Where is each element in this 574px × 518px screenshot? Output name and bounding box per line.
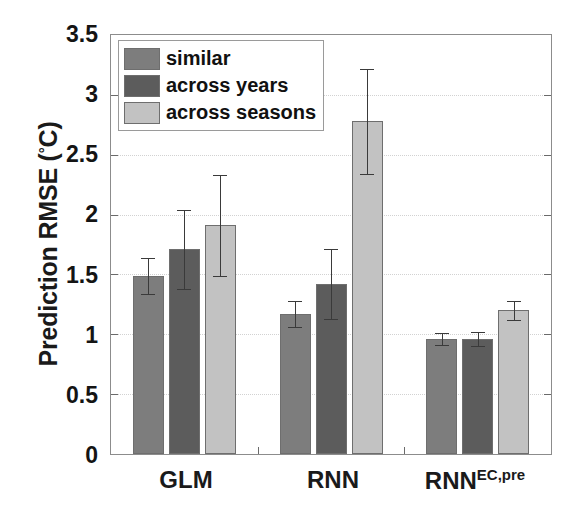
- legend-item-across-seasons[interactable]: across seasons: [124, 99, 317, 126]
- error-bar-cap-lower: [141, 294, 155, 295]
- legend-swatch-across-years: [124, 75, 160, 97]
- legend-swatch-across-seasons: [124, 102, 160, 124]
- error-bar-cap-upper: [360, 69, 374, 70]
- x-tick-label-rnn: RNN: [307, 466, 359, 494]
- error-bar-cap-upper: [141, 258, 155, 259]
- error-bar-cap-lower: [177, 289, 191, 290]
- error-bar-line: [367, 69, 368, 174]
- error-bar-cap-lower: [435, 345, 449, 346]
- x-tick-label-rnn-ec-pre: RNNEC,pre: [425, 466, 525, 495]
- x-tick-label-text: RNN: [307, 466, 359, 493]
- y-axis-tick-labels: 3.5 3 2.5 2 1.5 1 0.5 0: [30, 0, 98, 518]
- legend-label: across years: [166, 74, 288, 97]
- legend-item-across-years[interactable]: across years: [124, 72, 317, 99]
- error-bar-cap-lower: [324, 319, 338, 320]
- y-tick-label: 1.5: [30, 262, 98, 289]
- error-bar-line: [148, 258, 149, 294]
- error-bar-line: [220, 175, 221, 276]
- x-tick-label-superscript: EC,pre: [477, 466, 525, 483]
- error-bar-cap-upper: [471, 332, 485, 333]
- error-bar-line: [295, 301, 296, 327]
- legend-item-similar[interactable]: similar: [124, 45, 317, 72]
- error-bar-cap-lower: [213, 276, 227, 277]
- bar[interactable]: [498, 310, 529, 454]
- error-bar-line: [331, 249, 332, 318]
- y-tick-label: 3.5: [30, 21, 98, 48]
- error-bar-line: [514, 301, 515, 320]
- y-tick-label: 3: [30, 81, 98, 108]
- error-bar-cap-upper: [213, 175, 227, 176]
- bar-chart-figure: Prediction RMSE (°C) 3.5 3 2.5 2 1.5 1 0…: [0, 0, 574, 518]
- x-tick-label-text: GLM: [159, 466, 212, 493]
- bar[interactable]: [462, 339, 493, 454]
- x-tick-label-text: RNN: [425, 467, 477, 494]
- error-bar-cap-upper: [507, 301, 521, 302]
- bar[interactable]: [280, 314, 311, 454]
- error-bar-cap-lower: [360, 174, 374, 175]
- legend-swatch-similar: [124, 48, 160, 70]
- error-bar-line: [184, 210, 185, 289]
- error-bar-line: [478, 332, 479, 346]
- error-bar-cap-lower: [471, 346, 485, 347]
- y-tick-label: 2: [30, 201, 98, 228]
- error-bar-cap-upper: [324, 249, 338, 250]
- y-tick-label: 0.5: [30, 382, 98, 409]
- legend-label: across seasons: [166, 101, 316, 124]
- legend: similar across years across seasons: [118, 40, 324, 131]
- legend-label: similar: [166, 47, 230, 70]
- y-tick-label: 0: [30, 442, 98, 469]
- bar[interactable]: [426, 339, 457, 454]
- error-bar-cap-upper: [177, 210, 191, 211]
- y-tick-label: 1: [30, 322, 98, 349]
- error-bar-cap-lower: [507, 320, 521, 321]
- error-bar-cap-lower: [288, 327, 302, 328]
- y-tick-label: 2.5: [30, 141, 98, 168]
- error-bar-cap-upper: [435, 333, 449, 334]
- error-bar-cap-upper: [288, 301, 302, 302]
- bar[interactable]: [133, 276, 164, 454]
- error-bar-line: [442, 333, 443, 345]
- x-tick-label-glm: GLM: [159, 466, 212, 494]
